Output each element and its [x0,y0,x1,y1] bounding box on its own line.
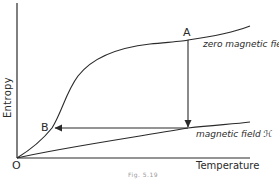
origin-label: O [12,160,21,171]
y-axis-label: Entropy [3,77,13,118]
entropy-temperature-diagram: Entropy Temperature O A B zero magnetic … [0,0,279,180]
point-a-label: A [183,27,191,38]
figure-caption: Fig. 5.19 [128,172,158,178]
diagram-canvas [0,0,279,180]
magnetic-field-curve-label: magnetic field ℋ [196,130,272,139]
point-b-label: B [41,122,49,133]
x-axis-label: Temperature [196,161,259,171]
zero-field-curve-label: zero magnetic field [203,40,279,49]
